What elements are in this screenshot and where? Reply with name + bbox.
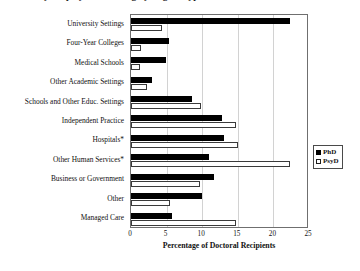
- bar-psyd: [131, 84, 147, 90]
- bar-psyd: [131, 161, 290, 167]
- chart-legend: PhD PsyD: [313, 145, 343, 169]
- legend-item-phd: PhD: [316, 148, 339, 157]
- bar-row: [131, 15, 307, 34]
- category-label: Medical Schools: [75, 59, 124, 67]
- bar-phd: [131, 18, 290, 24]
- bar-psyd: [131, 103, 201, 109]
- legend-label-psyd: PsyD: [323, 157, 339, 166]
- x-tick-label: 0: [128, 230, 132, 239]
- bar-phd: [131, 213, 172, 219]
- category-label: Hospitals*: [92, 136, 124, 144]
- bar-psyd: [131, 122, 236, 128]
- bar-row: [131, 34, 307, 53]
- category-label: Managed Care: [81, 214, 124, 222]
- category-label: Schools and Other Educ. Settings: [25, 98, 124, 106]
- bar-phd: [131, 115, 222, 121]
- bar-phd: [131, 135, 224, 141]
- bar-psyd: [131, 200, 170, 206]
- filled-square-icon: [316, 150, 321, 155]
- bar-phd: [131, 154, 209, 160]
- category-label: University Settings: [67, 20, 124, 28]
- x-tick-label: 5: [164, 230, 168, 239]
- bar-psyd: [131, 64, 140, 70]
- x-tick-label: 25: [304, 230, 311, 239]
- x-axis-title: Percentage of Doctoral Recipients: [130, 241, 308, 250]
- legend-label-phd: PhD: [323, 148, 336, 157]
- chart-title: Primary Employment Setting by Degree Typ…: [14, 0, 203, 1]
- x-tick-label: 10: [198, 230, 205, 239]
- category-label: Four-Year Colleges: [66, 39, 124, 47]
- x-axis-tick-labels: 0510152025: [130, 230, 308, 240]
- bar-row: [131, 132, 307, 151]
- bar-phd: [131, 77, 152, 83]
- bar-phd: [131, 38, 169, 44]
- bar-phd: [131, 96, 192, 102]
- bar-row: [131, 93, 307, 112]
- bar-row: [131, 54, 307, 73]
- open-square-icon: [316, 159, 321, 164]
- bar-rows: [131, 15, 307, 227]
- bar-row: [131, 190, 307, 209]
- category-label: Other Human Services*: [53, 156, 124, 164]
- bar-psyd: [131, 181, 200, 187]
- bar-psyd: [131, 45, 141, 51]
- x-tick-label: 20: [269, 230, 276, 239]
- bar-phd: [131, 174, 214, 180]
- y-axis-category-labels: University SettingsFour-Year CollegesMed…: [0, 14, 127, 228]
- bar-row: [131, 171, 307, 190]
- bar-row: [131, 210, 307, 229]
- bar-psyd: [131, 25, 162, 31]
- bar-row: [131, 73, 307, 92]
- bar-row: [131, 112, 307, 131]
- bar-phd: [131, 57, 166, 63]
- bar-row: [131, 151, 307, 170]
- category-label: Other: [107, 195, 124, 203]
- category-label: Business or Government: [51, 175, 124, 183]
- bar-phd: [131, 193, 202, 199]
- bar-psyd: [131, 142, 238, 148]
- category-label: Independent Practice: [62, 117, 124, 125]
- bar-psyd: [131, 220, 236, 226]
- category-label: Other Academic Settings: [50, 78, 124, 86]
- x-tick-label: 15: [233, 230, 240, 239]
- plot-area: [130, 14, 308, 228]
- legend-item-psyd: PsyD: [316, 157, 339, 166]
